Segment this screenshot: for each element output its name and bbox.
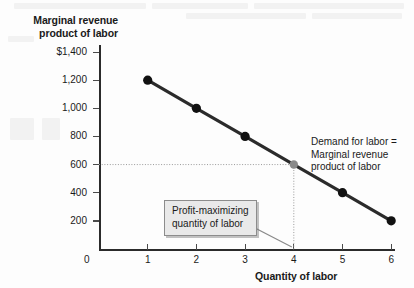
highlight-data-point: [290, 160, 298, 168]
series-label-line3: product of labor: [311, 161, 397, 174]
callout-line2: quantity of labor: [172, 218, 249, 231]
chart-figure: Marginal revenue product of labor $1,400…: [0, 0, 414, 288]
data-point: [143, 76, 152, 85]
profit-maximizing-callout: Profit-maximizing quantity of labor: [164, 200, 257, 236]
series-label-line1: Demand for labor =: [311, 136, 397, 149]
series-label: Demand for labor = Marginal revenue prod…: [311, 136, 397, 174]
callout-line1: Profit-maximizing: [172, 205, 249, 218]
data-point: [192, 104, 201, 113]
plot-area: $1,4001,2001,000800600400200 123456 0 Qu…: [0, 0, 414, 288]
data-point: [241, 132, 250, 141]
series-label-line2: Marginal revenue: [311, 149, 397, 162]
data-point: [387, 216, 396, 225]
data-point: [338, 188, 347, 197]
